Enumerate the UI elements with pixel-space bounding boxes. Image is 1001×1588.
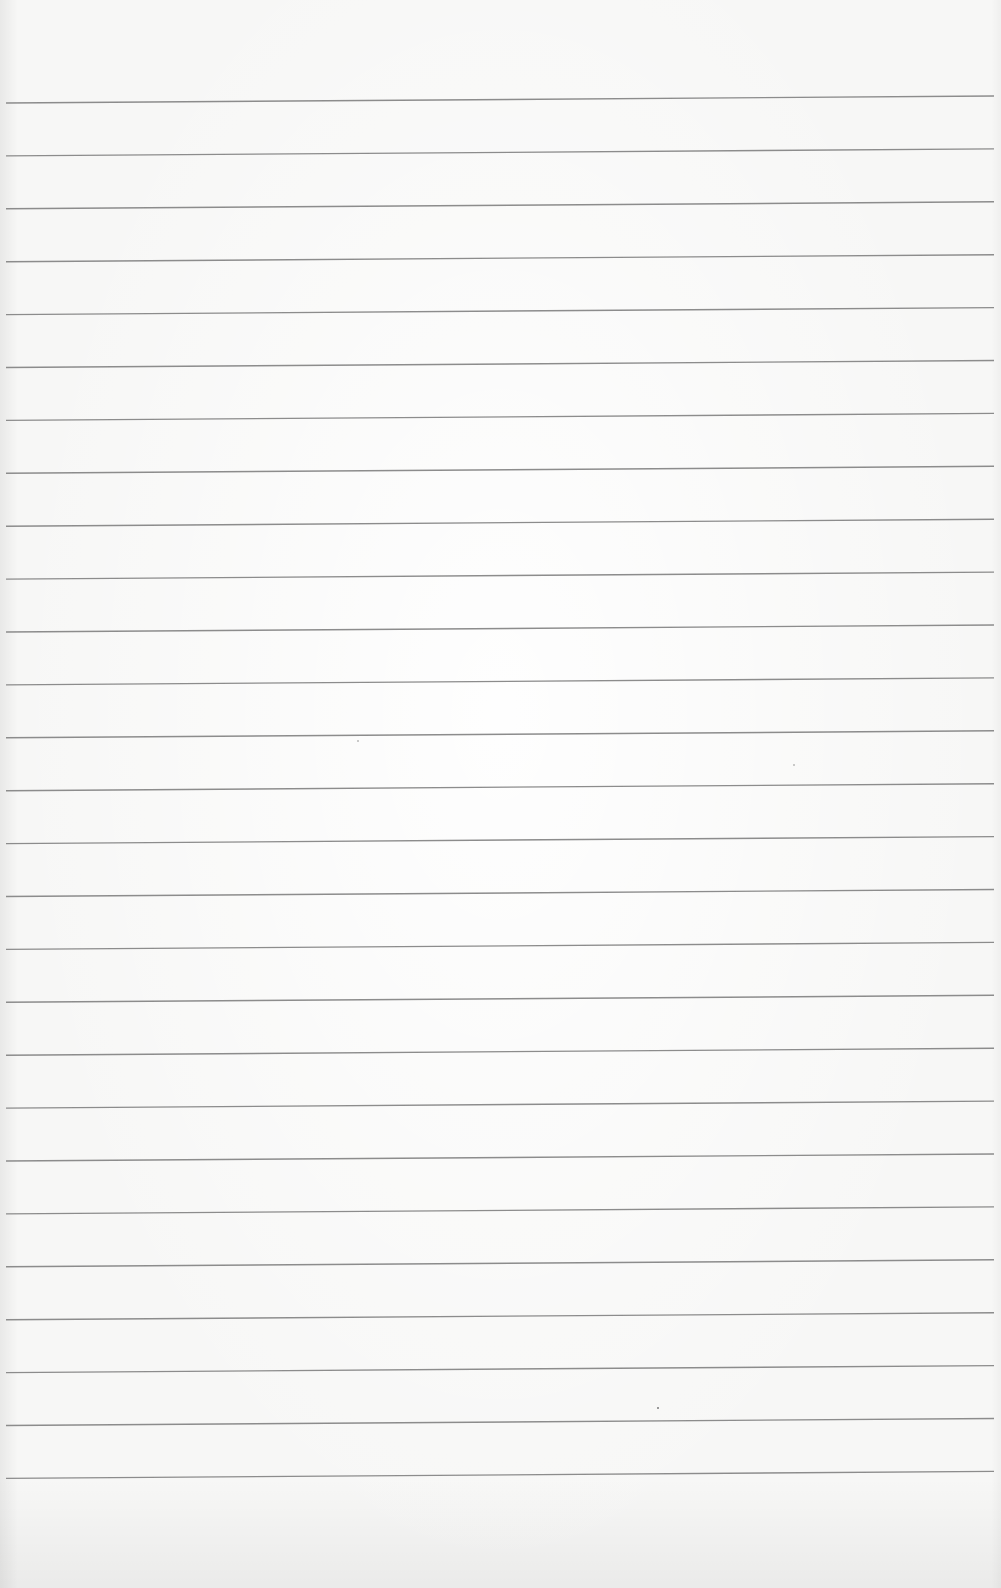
ruled-paper-sheet [0,0,1001,1588]
ruled-line [6,96,994,103]
paper-speck [657,1407,659,1409]
ruled-line [6,308,994,315]
ruled-line [6,1048,994,1055]
ruled-line [6,149,994,156]
ruled-lines [0,0,1001,1588]
ruled-line [6,519,994,526]
ruled-line [6,678,994,685]
ruled-line [6,202,994,209]
paper-speck [793,764,795,766]
ruled-line [6,361,994,368]
ruled-line [6,1101,994,1108]
ruled-line [6,572,994,579]
ruled-line [6,255,994,262]
ruled-line [6,466,994,473]
ruled-line [6,1207,994,1214]
ruled-line [6,413,994,420]
ruled-line [6,1260,994,1267]
ruled-line [6,995,994,1002]
ruled-line [6,1419,994,1426]
ruled-line [6,1366,994,1373]
ruled-line [6,1313,994,1320]
ruled-line [6,1471,994,1478]
ruled-line [6,625,994,632]
ruled-line [6,1154,994,1161]
ruled-line [6,731,994,738]
paper-speck [357,740,359,742]
ruled-line [6,890,994,897]
ruled-line [6,942,994,949]
ruled-line [6,837,994,844]
ruled-line [6,784,994,791]
